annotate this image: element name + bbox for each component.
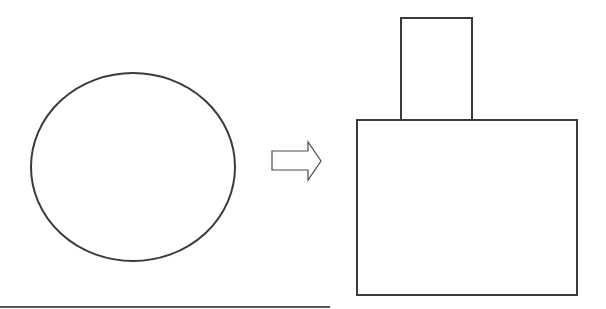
right-arrow-icon xyxy=(272,142,321,180)
result-shape xyxy=(357,18,577,295)
diagram-canvas xyxy=(0,0,606,309)
small-top-rectangle xyxy=(401,18,472,120)
large-base-rectangle xyxy=(357,120,577,295)
source-circle xyxy=(31,73,235,261)
